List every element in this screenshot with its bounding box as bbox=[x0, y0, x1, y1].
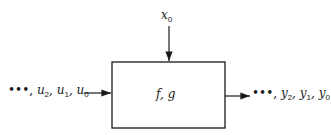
initial-state-label: x0 bbox=[161, 9, 172, 26]
input-sequence-label: •••, u2, u1, u0 bbox=[8, 84, 89, 101]
output-sequence-label: •••, y2, y1, y0 bbox=[252, 87, 330, 104]
block-label: f, g bbox=[156, 88, 175, 100]
